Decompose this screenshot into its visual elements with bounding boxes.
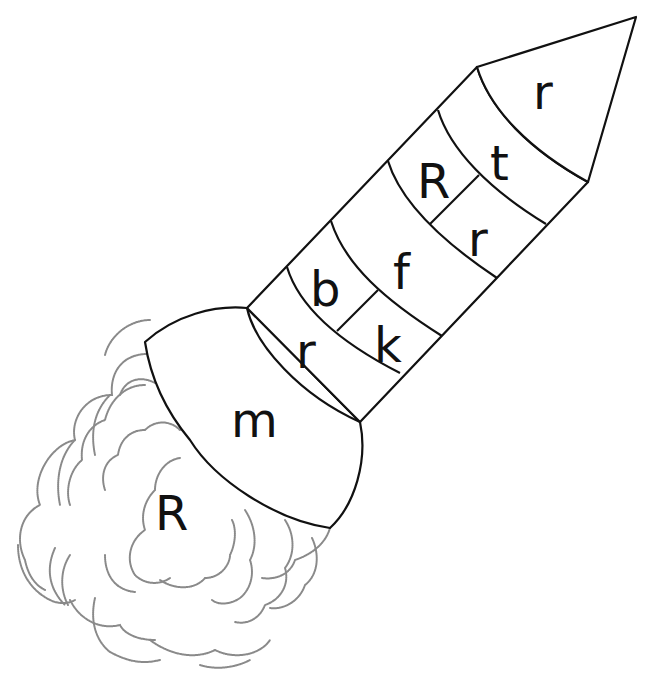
letter-band4-upper: b: [310, 261, 340, 317]
letter-band4-lower: k: [374, 317, 402, 373]
rocket-worksheet: r t r R f b k r m R: [0, 0, 669, 677]
letter-band3: f: [393, 244, 411, 300]
letter-band1-lower: r: [468, 211, 488, 267]
letter-cloud: R: [155, 485, 188, 541]
letter-band1-upper: t: [490, 135, 509, 191]
letter-nose: r: [533, 64, 553, 120]
letter-band5: r: [296, 323, 316, 379]
letter-base: m: [231, 392, 278, 448]
letter-band2-upper: R: [417, 153, 450, 209]
